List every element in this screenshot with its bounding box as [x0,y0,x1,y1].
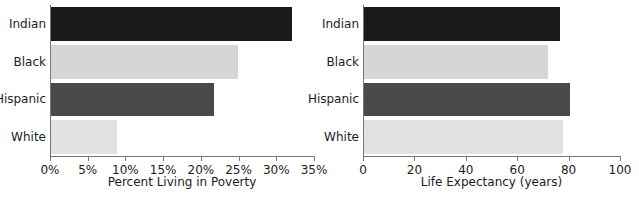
bar-indian-life-expectancy [363,7,560,41]
x-axis-tick [239,156,240,161]
plot-area-poverty: 0%5%10%15%20%25%30%35% [50,5,314,156]
x-axis-tick [314,156,315,161]
bar-white-poverty [50,120,117,154]
bar-white-life-expectancy [363,120,563,154]
x-axis-tick [569,156,570,161]
x-axis-tick [414,156,415,161]
category-label-white: White [11,130,46,144]
category-label-row: Hispanic [0,81,46,119]
category-label-row: White [320,118,359,156]
figure-two-bar-charts: Indian Black Hispanic White [0,0,639,199]
bar-row [50,43,314,81]
x-axis-tick [517,156,518,161]
plot-area-life-expectancy: 020406080100 [363,5,620,156]
category-label-indian: Indian [322,17,359,31]
bar-series-life-expectancy [363,5,620,156]
category-axis-labels-life-expectancy: Indian Black Hispanic White [320,5,359,156]
category-label-hispanic: Hispanic [0,92,46,106]
bar-black-poverty [50,45,238,79]
x-axis-tick [163,156,164,161]
x-axis-title-poverty: Percent Living in Poverty [50,175,314,190]
category-label-hispanic: Hispanic [308,92,359,106]
x-axis-line-poverty [50,156,314,157]
category-label-black: Black [327,55,359,69]
x-axis-tick [620,156,621,161]
category-axis-labels-poverty: Indian Black Hispanic White [0,5,46,156]
bar-black-life-expectancy [363,45,548,79]
chart-panel-life-expectancy: Indian Black Hispanic White [320,0,639,199]
category-label-row: Black [320,43,359,81]
x-axis-title-life-expectancy: Life Expectancy (years) [363,175,620,190]
y-axis-line-life-expectancy [363,5,364,157]
category-label-row: Hispanic [320,81,359,119]
chart-panel-poverty: Indian Black Hispanic White [0,0,320,199]
category-label-indian: Indian [9,17,46,31]
x-axis-tick [276,156,277,161]
category-label-black: Black [14,55,46,69]
category-label-row: Indian [320,5,359,43]
bar-row [363,81,620,119]
x-axis-tick [125,156,126,161]
category-label-row: White [0,118,46,156]
x-axis-tick [466,156,467,161]
x-axis-tick [201,156,202,161]
bar-hispanic-life-expectancy [363,83,570,117]
bar-row [363,5,620,43]
bar-series-poverty [50,5,314,156]
bar-row [363,118,620,156]
bar-row [363,43,620,81]
x-axis-line-life-expectancy [363,156,620,157]
bar-indian-poverty [50,7,292,41]
category-label-row: Indian [0,5,46,43]
category-label-row: Black [0,43,46,81]
bar-row [50,5,314,43]
x-axis-tick [363,156,364,161]
x-axis-tick [88,156,89,161]
bar-row [50,118,314,156]
bar-row [50,81,314,119]
category-label-white: White [324,130,359,144]
x-axis-tick [50,156,51,161]
y-axis-line-poverty [50,5,51,157]
bar-hispanic-poverty [50,83,214,117]
